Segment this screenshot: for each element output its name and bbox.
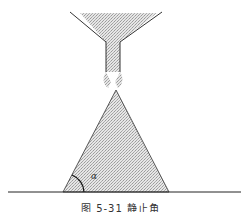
funnel-powder — [80, 13, 157, 72]
angle-of-repose-diagram — [0, 0, 241, 212]
figure-caption: 图 5-31 静止角 — [0, 200, 241, 212]
falling-particles — [104, 72, 123, 88]
angle-alpha-label: α — [91, 171, 97, 181]
powder-cone — [63, 90, 169, 192]
